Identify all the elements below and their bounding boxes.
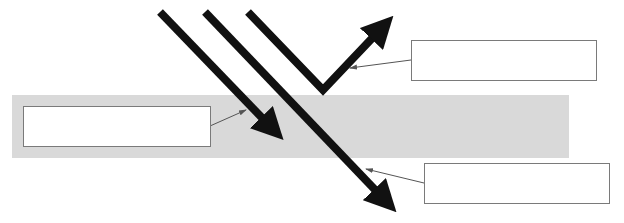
transmitted-ray-arrow	[205, 12, 381, 196]
leader-line-absorbed	[210, 110, 246, 126]
label-box-transmitted[interactable]	[424, 163, 610, 204]
leader-line-reflected	[350, 60, 411, 68]
label-box-absorbed[interactable]	[23, 106, 211, 147]
label-box-reflected[interactable]	[411, 40, 597, 81]
leader-line-transmitted	[366, 169, 424, 183]
